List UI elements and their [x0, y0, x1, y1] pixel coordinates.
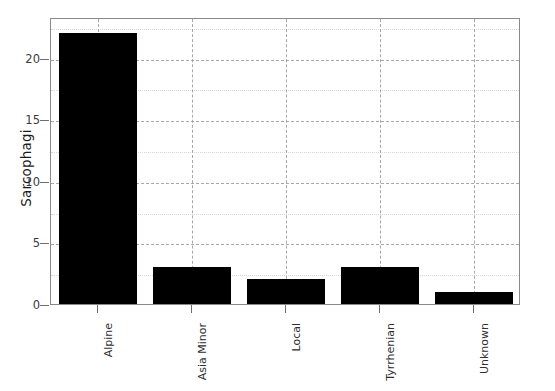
y-tick-label: 20	[10, 52, 40, 66]
bar-chart-figure: Sarcophagi 05101520 AlpineAsia MinorLoca…	[0, 0, 555, 391]
x-tick-label: Asia Minor	[196, 319, 209, 391]
y-tick-label: 10	[10, 175, 40, 189]
y-tick-label: 5	[10, 236, 40, 250]
x-tick-mark	[285, 305, 286, 313]
y-tick-mark	[40, 120, 49, 121]
y-tick-mark	[40, 59, 49, 60]
bar	[435, 292, 512, 304]
bar	[247, 279, 324, 304]
x-tick-mark	[191, 305, 192, 313]
x-tick-mark	[97, 305, 98, 313]
x-tick-label: Local	[290, 319, 303, 391]
y-tick-label: 0	[10, 298, 40, 312]
y-tick-mark	[40, 243, 49, 244]
x-axis: AlpineAsia MinorLocalTyrrhenianUnknown	[50, 305, 520, 385]
x-tick-label: Tyrrhenian	[384, 319, 397, 391]
y-tick-mark	[40, 182, 49, 183]
plot-area	[50, 18, 520, 305]
x-tick-label: Alpine	[102, 319, 115, 391]
bar	[153, 267, 230, 304]
bar-series	[51, 19, 519, 304]
bar	[59, 33, 136, 304]
y-tick-mark	[40, 305, 49, 306]
x-tick-label: Unknown	[478, 319, 491, 391]
x-tick-mark	[473, 305, 474, 313]
bar	[341, 267, 418, 304]
y-tick-label: 15	[10, 113, 40, 127]
x-tick-mark	[379, 305, 380, 313]
